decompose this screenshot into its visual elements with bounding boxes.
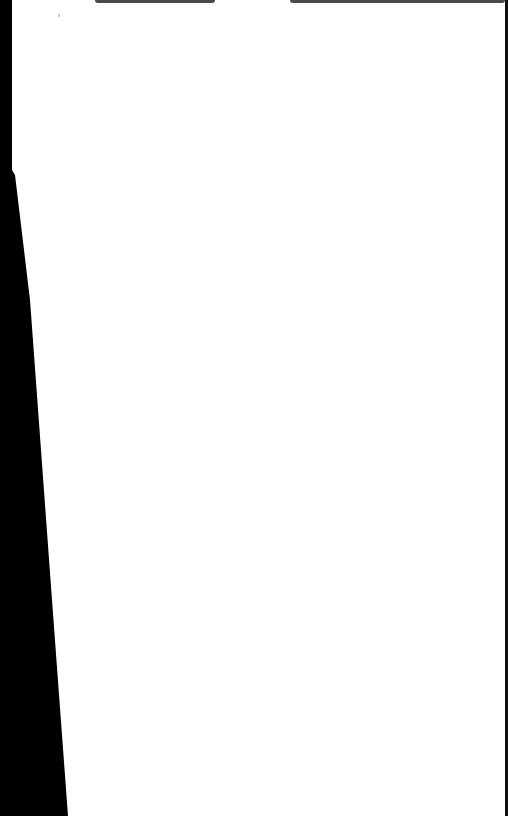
top-edge-smudge <box>95 0 215 3</box>
scan-background <box>0 0 508 816</box>
top-edge-smudge <box>290 0 505 3</box>
blank-paper-page <box>0 0 508 816</box>
paper-speck <box>58 14 60 17</box>
